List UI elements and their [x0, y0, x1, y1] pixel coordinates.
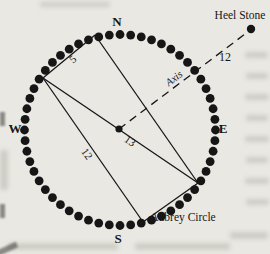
aubrey-hole-dot — [157, 40, 166, 49]
book-page: N E S W Heel Stone Aubrey Circle Axis 5 … — [0, 0, 270, 254]
aubrey-hole-dot — [175, 51, 184, 60]
aubrey-hole-dot — [48, 58, 57, 67]
aubrey-hole-dot — [211, 136, 220, 145]
aubrey-hole-dot — [21, 115, 30, 124]
aubrey-hole-dot — [202, 84, 211, 93]
label-west: W — [9, 121, 22, 136]
aubrey-hole-dot — [94, 219, 103, 228]
aubrey-hole-dot — [48, 193, 57, 202]
aubrey-hole-dot — [65, 206, 74, 215]
aubrey-hole-dot — [30, 167, 39, 176]
aubrey-diagram-svg: N E S W Heel Stone Aubrey Circle Axis 5 … — [0, 0, 270, 254]
aubrey-hole-dot — [74, 212, 83, 221]
label-south: S — [114, 231, 121, 246]
aubrey-hole-dot — [166, 45, 175, 54]
circle-center-dot — [115, 125, 122, 132]
aubrey-hole-dot — [84, 35, 93, 44]
aubrey-hole-dot — [22, 147, 31, 156]
label-heel-stone: Heel Stone — [215, 9, 266, 21]
aubrey-hole-dot — [56, 200, 65, 209]
aubrey-hole-dot — [35, 75, 44, 84]
heel-stone-dot — [247, 25, 255, 33]
aubrey-hole-dot — [105, 221, 114, 230]
aubrey-hole-dot — [41, 66, 50, 75]
aubrey-hole-dot — [206, 94, 215, 103]
aubrey-hole-dot — [209, 104, 218, 113]
label-aubrey-circle: Aubrey Circle — [150, 211, 215, 224]
aubrey-hole-dot — [175, 200, 184, 209]
aubrey-hole-dot — [209, 147, 218, 156]
aubrey-hole-dot — [22, 104, 31, 113]
aubrey-hole-dot — [25, 94, 34, 103]
aubrey-hole-dot — [21, 136, 30, 145]
aubrey-hole-dot — [126, 31, 135, 40]
aubrey-hole-dot — [41, 185, 50, 194]
aubrey-hole-dot — [183, 58, 192, 67]
label-diagonal-13: 13 — [122, 133, 138, 149]
aubrey-hole-dot — [196, 176, 205, 185]
aubrey-hole-dot — [183, 193, 192, 202]
aubrey-hole-dot — [35, 176, 44, 185]
aubrey-hole-dot — [65, 45, 74, 54]
axis-dashed-line — [119, 31, 249, 129]
aubrey-hole-dot — [116, 30, 125, 39]
aubrey-hole-dot — [94, 32, 103, 41]
aubrey-hole-dot — [202, 167, 211, 176]
aubrey-hole-dot — [84, 216, 93, 225]
label-heel-distance-12: 12 — [219, 50, 231, 64]
aubrey-hole-dot — [137, 219, 146, 228]
aubrey-hole-dot — [126, 221, 135, 230]
aubrey-hole-dot — [137, 32, 146, 41]
aubrey-hole-dot — [105, 31, 114, 40]
aubrey-hole-dot — [56, 51, 65, 60]
label-north: N — [112, 14, 122, 29]
aubrey-hole-dot — [30, 84, 39, 93]
aubrey-hole-dot — [190, 185, 199, 194]
aubrey-hole-dot — [196, 75, 205, 84]
aubrey-hole-dot — [190, 66, 199, 75]
label-axis: Axis — [163, 68, 185, 88]
aubrey-hole-dot — [25, 157, 34, 166]
aubrey-hole-dot — [74, 40, 83, 49]
label-east: E — [219, 121, 228, 136]
aubrey-hole-dot — [147, 35, 156, 44]
label-long-side-12: 12 — [79, 146, 95, 162]
aubrey-hole-dot — [206, 157, 215, 166]
aubrey-hole-dot — [116, 221, 125, 230]
